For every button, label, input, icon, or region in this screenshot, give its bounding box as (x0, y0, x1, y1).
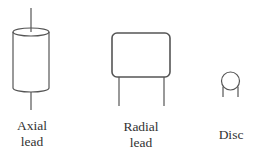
radial-capacitor-icon (112, 33, 170, 106)
radial-label-line-2: lead (118, 135, 164, 151)
axial-label: Axial lead (11, 118, 53, 150)
disc-label-line-1: Disc (212, 127, 250, 143)
axial-label-line-2: lead (11, 134, 53, 150)
radial-label-line-1: Radial (118, 119, 164, 135)
axial-bottom-arc (13, 88, 49, 92)
radial-label: Radial lead (118, 119, 164, 151)
disc-label: Disc (212, 127, 250, 143)
radial-body (112, 33, 170, 77)
disc-capacitor-icon (222, 72, 240, 97)
axial-label-line-1: Axial (11, 118, 53, 134)
axial-capacitor-icon (13, 8, 49, 110)
disc-body (222, 72, 240, 90)
